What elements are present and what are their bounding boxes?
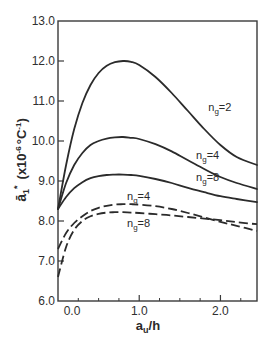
y-tick-label: 8.0 bbox=[38, 214, 55, 228]
curve-label: ng=4 bbox=[196, 149, 219, 164]
line-chart: 6.07.08.09.010.011.012.013.0 0.01.02.0 n… bbox=[0, 0, 271, 340]
plot-border bbox=[58, 21, 257, 301]
y-tick-label: 13.0 bbox=[32, 14, 56, 28]
curve-n-g-8-dashed- bbox=[58, 212, 257, 277]
x-tick-label: 2.0 bbox=[212, 304, 229, 318]
y-tick-label: 12.0 bbox=[32, 54, 56, 68]
curve-n-g-4-dashed- bbox=[58, 204, 257, 249]
y-tick-label: 6.0 bbox=[38, 294, 55, 308]
curve-label: ng=4 bbox=[127, 190, 150, 205]
y-tick-label: 9.0 bbox=[38, 174, 55, 188]
x-axis-title: au/h bbox=[136, 318, 160, 335]
plot-frame bbox=[58, 21, 257, 301]
x-axis-ticks: 0.01.02.0 bbox=[64, 295, 241, 318]
curve-label: ng=8 bbox=[127, 217, 150, 232]
y-tick-label: 7.0 bbox=[38, 254, 55, 268]
curve-labels: ng=2ng=4ng=8ng=4ng=8 bbox=[127, 101, 231, 232]
y-tick-label: 11.0 bbox=[33, 94, 56, 108]
curve-n-g-2-solid- bbox=[58, 61, 257, 209]
y-axis-title: ā1*(x10-6°C-1) bbox=[12, 118, 31, 202]
curve-label: ng=2 bbox=[208, 101, 231, 116]
y-axis-ticks: 6.07.08.09.010.011.012.013.0 bbox=[32, 14, 64, 308]
x-tick-label: 1.0 bbox=[131, 304, 148, 318]
curve-label: ng=8 bbox=[196, 171, 219, 186]
data-curves bbox=[58, 61, 257, 277]
y-tick-label: 10.0 bbox=[32, 134, 56, 148]
x-tick-label: 0.0 bbox=[64, 304, 81, 318]
